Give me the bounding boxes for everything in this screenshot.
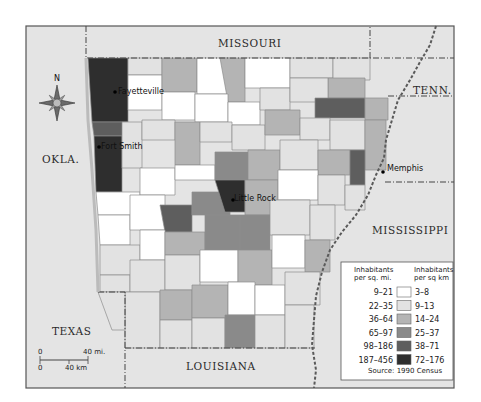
arkansas-density-map: MISSOURI TENN. OKLA. MISSISSIPPI TEXAS L…	[0, 0, 481, 402]
county	[192, 318, 225, 348]
legend-swatch	[397, 301, 411, 311]
county	[215, 152, 248, 180]
legend-swatch	[397, 314, 411, 324]
legend-mi-label: 36–64	[369, 315, 393, 324]
county	[200, 122, 232, 142]
legend-mi-label: 65–97	[369, 329, 393, 338]
legend-km-label: 3–8	[415, 288, 429, 297]
county	[265, 110, 300, 135]
county	[140, 168, 175, 195]
label-mississippi: MISSISSIPPI	[372, 224, 448, 236]
county	[255, 285, 285, 315]
county	[290, 58, 333, 78]
county	[310, 205, 335, 240]
legend-km-label: 9–13	[415, 302, 434, 311]
county	[165, 232, 205, 255]
legend-swatch	[397, 355, 411, 365]
county	[328, 78, 365, 98]
county	[228, 102, 260, 125]
county	[300, 118, 330, 140]
county	[160, 290, 192, 320]
legend-mi-label: 187–456	[358, 356, 393, 365]
county	[160, 205, 192, 232]
legend-km-label: 72–176	[415, 356, 444, 365]
label-oklahoma: OKLA.	[42, 153, 79, 165]
label-missouri: MISSOURI	[218, 37, 281, 49]
county	[365, 98, 388, 120]
county	[140, 230, 165, 260]
legend-swatch	[397, 341, 411, 351]
scale-km-start: 0	[38, 364, 42, 372]
county	[318, 150, 350, 175]
legend-mi-label: 98–186	[364, 342, 393, 351]
scale-mi-end: 40 mi.	[83, 348, 105, 356]
county	[318, 175, 345, 205]
legend-km-label: 25–37	[415, 329, 439, 338]
county	[285, 305, 314, 348]
legend-mi-label: 22–35	[369, 302, 393, 311]
county	[175, 165, 215, 180]
county	[162, 92, 195, 120]
county	[225, 315, 255, 348]
county	[130, 260, 165, 292]
county	[195, 94, 228, 122]
legend-swatch	[397, 287, 411, 297]
county	[280, 140, 318, 170]
county	[350, 150, 365, 185]
legend: Inhabitants per sq. mi. Inhabitants per …	[341, 262, 454, 380]
county	[200, 250, 238, 282]
county	[160, 320, 192, 348]
county	[278, 170, 318, 200]
label-little-rock: Little Rock	[234, 194, 276, 203]
county	[305, 240, 330, 272]
county	[238, 250, 272, 285]
legend-header-right-1: Inhabitants	[414, 266, 454, 274]
county	[315, 98, 365, 118]
legend-source: Source: 1990 Census	[368, 367, 442, 375]
county	[192, 285, 228, 318]
county	[175, 122, 200, 165]
label-fayetteville: Fayetteville	[118, 87, 164, 96]
legend-header-right-2: per sq km	[414, 274, 449, 282]
county	[333, 58, 370, 80]
county	[270, 200, 310, 235]
county	[125, 292, 160, 348]
county	[260, 88, 290, 110]
county	[162, 58, 197, 92]
legend-km-label: 38–71	[415, 342, 439, 351]
county	[228, 282, 255, 315]
county	[98, 215, 130, 245]
county	[142, 120, 175, 140]
compass-north-label: N	[54, 74, 60, 83]
county	[330, 120, 365, 150]
label-tennessee: TENN.	[413, 84, 452, 96]
county	[232, 125, 265, 150]
legend-mi-label: 9–21	[374, 288, 393, 297]
city-dot-fayetteville	[113, 90, 117, 94]
legend-header-left-1: Inhabitants	[354, 266, 394, 274]
scale-mi-start: 0	[38, 348, 42, 356]
county	[272, 235, 305, 268]
legend-swatch	[397, 328, 411, 338]
label-texas: TEXAS	[52, 325, 92, 337]
county	[128, 58, 162, 75]
label-memphis: Memphis	[387, 164, 423, 173]
county	[130, 195, 165, 230]
county	[245, 58, 290, 88]
label-fort-smith: Fort Smith	[101, 142, 142, 151]
county	[100, 275, 130, 292]
label-louisiana: LOUISIANA	[186, 360, 256, 372]
county	[248, 150, 280, 180]
legend-header-left-2: per sq. mi.	[354, 274, 391, 282]
legend-km-label: 14–24	[415, 315, 439, 324]
county	[255, 315, 285, 348]
county	[205, 215, 240, 250]
city-dot-memphis	[381, 170, 385, 174]
county	[285, 272, 320, 305]
scale-km-end: 40 km	[65, 364, 87, 372]
county	[240, 215, 270, 250]
